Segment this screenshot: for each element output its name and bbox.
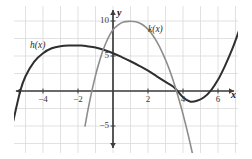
y-tick-label: −5 [99, 121, 109, 130]
curve-label-h: h(x) [30, 41, 45, 51]
y-tick-label: 5 [105, 51, 110, 60]
x-axis-label: x [231, 90, 236, 100]
y-tick-label: 10 [100, 16, 109, 25]
x-tick-label: −2 [73, 95, 83, 104]
x-tick-label: 6 [216, 95, 221, 104]
plot-background [14, 6, 238, 153]
x-tick-label: 2 [146, 95, 151, 104]
graph-figure: y x h(x) k(x) −4−2246105−5 [0, 0, 252, 159]
coordinate-plane [0, 0, 252, 159]
y-axis-label: y [117, 8, 121, 18]
curve-label-k: k(x) [148, 25, 163, 35]
x-tick-label: 4 [181, 95, 186, 104]
x-tick-label: −4 [38, 95, 48, 104]
